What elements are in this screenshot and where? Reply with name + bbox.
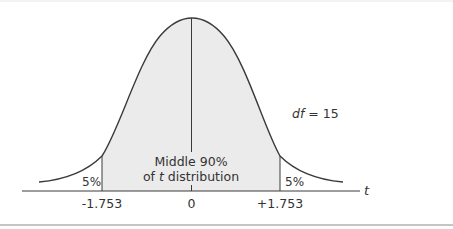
tick-label-right: +1.753 — [257, 196, 303, 211]
tick-label-left: -1.753 — [82, 196, 122, 211]
right-tail-label: 5% — [285, 175, 304, 189]
df-label: df= 15 — [292, 106, 339, 121]
tick-label-zero: 0 — [188, 196, 196, 211]
left-tail-label: 5% — [82, 175, 101, 189]
middle-label-line1: Middle 90% — [154, 154, 227, 169]
middle-label-line2: of t distribution — [143, 169, 239, 184]
axis-label-t: t — [364, 183, 370, 198]
t-distribution-diagram: 5% 5% Middle 90% of t distribution -1.75… — [0, 0, 453, 229]
